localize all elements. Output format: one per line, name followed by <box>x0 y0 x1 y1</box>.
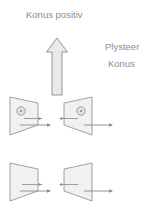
cone-top-right <box>59 97 113 135</box>
cone-top-left-hole-center <box>20 110 22 112</box>
cone-bottom-right <box>59 163 113 201</box>
cone-bottom-left <box>10 163 51 201</box>
legend-label-konus: Konus <box>108 58 135 69</box>
cone-diagram-canvas: Konus positiv Plysteer Konus <box>0 0 150 218</box>
legend-label-plysteer: Plysteer <box>105 41 139 52</box>
diagram-title: Konus positiv <box>26 9 83 20</box>
up-arrow-icon <box>47 38 68 95</box>
cone-top-right-hole-center <box>80 110 82 112</box>
cone-top-left <box>10 97 51 135</box>
